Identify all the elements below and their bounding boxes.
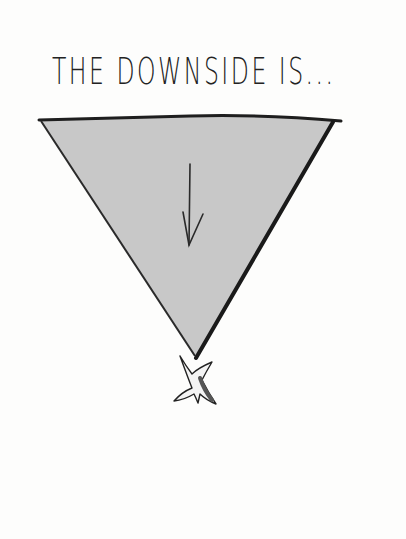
falling-person-icon	[174, 356, 216, 404]
downside-illustration	[0, 0, 406, 539]
